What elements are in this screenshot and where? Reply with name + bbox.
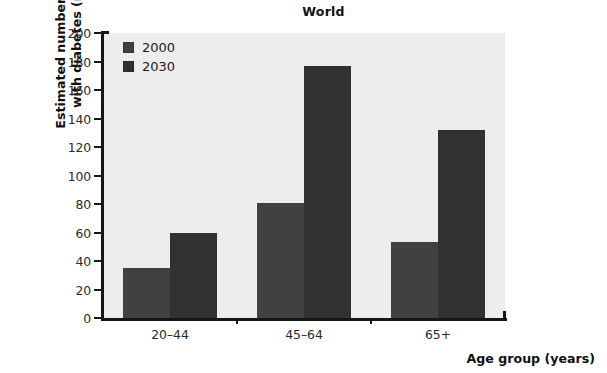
bar-2000-20–44 bbox=[123, 268, 170, 318]
y-tick bbox=[94, 289, 102, 291]
chart-legend: 2000 2030 bbox=[123, 41, 175, 73]
y-tick-label: 140 bbox=[51, 111, 91, 126]
y-tick bbox=[94, 203, 102, 205]
x-axis-end-tick bbox=[503, 311, 506, 320]
y-tick bbox=[94, 317, 102, 319]
y-tick bbox=[94, 61, 102, 63]
y-tick-label: 160 bbox=[51, 83, 91, 98]
bar-2030-65+ bbox=[438, 130, 485, 318]
bar-2030-45–64 bbox=[304, 66, 351, 318]
y-axis-cap-bottom bbox=[101, 318, 109, 321]
y-tick-label: 0 bbox=[51, 311, 91, 326]
legend-swatch-icon bbox=[123, 42, 134, 53]
y-tick bbox=[94, 118, 102, 120]
y-tick-label: 80 bbox=[51, 197, 91, 212]
y-tick bbox=[94, 175, 102, 177]
y-tick-label: 200 bbox=[51, 26, 91, 41]
y-tick bbox=[94, 146, 102, 148]
bar-2000-45–64 bbox=[257, 203, 304, 318]
y-tick bbox=[94, 232, 102, 234]
x-tick bbox=[370, 318, 372, 324]
x-axis-line bbox=[101, 318, 507, 321]
y-tick-label: 120 bbox=[51, 140, 91, 155]
legend-swatch-icon bbox=[123, 61, 134, 72]
y-tick bbox=[94, 32, 102, 34]
y-tick bbox=[94, 260, 102, 262]
chart-figure: World Estimated numbers of people with d… bbox=[0, 0, 607, 373]
x-tick-label: 45–64 bbox=[244, 327, 364, 342]
y-tick-label: 20 bbox=[51, 282, 91, 297]
bar-2000-65+ bbox=[391, 242, 438, 318]
y-tick bbox=[94, 89, 102, 91]
x-axis-label: Age group (years) bbox=[467, 351, 595, 366]
legend-label: 2030 bbox=[142, 60, 175, 73]
x-tick-label: 65+ bbox=[378, 327, 498, 342]
bars-layer bbox=[103, 33, 505, 318]
x-tick-label: 20–44 bbox=[110, 327, 230, 342]
legend-item-2000[interactable]: 2000 bbox=[123, 41, 175, 54]
x-tick bbox=[236, 318, 238, 324]
y-axis-cap-top bbox=[101, 31, 109, 34]
legend-label: 2000 bbox=[142, 41, 175, 54]
legend-item-2030[interactable]: 2030 bbox=[123, 60, 175, 73]
y-tick-label: 40 bbox=[51, 254, 91, 269]
y-tick-label: 60 bbox=[51, 225, 91, 240]
bar-2030-20–44 bbox=[170, 233, 217, 319]
y-tick-label: 180 bbox=[51, 54, 91, 69]
y-tick-label: 100 bbox=[51, 168, 91, 183]
